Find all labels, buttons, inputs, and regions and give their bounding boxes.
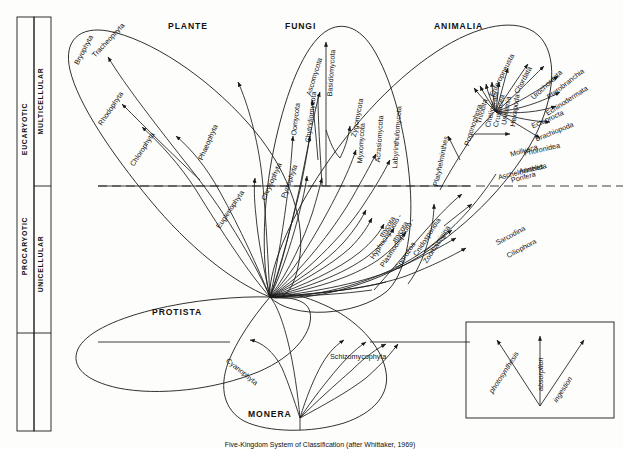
axis-label-multicellular: MULTICELLULAR: [29, 21, 47, 181]
legend-label-absorption: absorption: [536, 357, 545, 391]
figure-canvas: PROCARYOTIC EUCARYOTIC UNICELLULAR MULTI…: [0, 0, 623, 449]
figure-caption: Five-Kingdom System of Classification (a…: [160, 441, 480, 449]
taxon-schizomycophyta: Schizomycophyta: [330, 352, 386, 361]
kingdom-label-animalia: ANIMALIA: [434, 21, 483, 31]
kingdom-label-fungi: FUNGI: [285, 21, 316, 31]
axis-label-unicellular: UNICELLULAR: [29, 179, 47, 349]
kingdom-label-protista: PROTISTA: [152, 307, 202, 317]
kingdom-label-monera: MONERA: [248, 409, 292, 419]
kingdom-label-plantae: PLANTE: [168, 21, 208, 31]
